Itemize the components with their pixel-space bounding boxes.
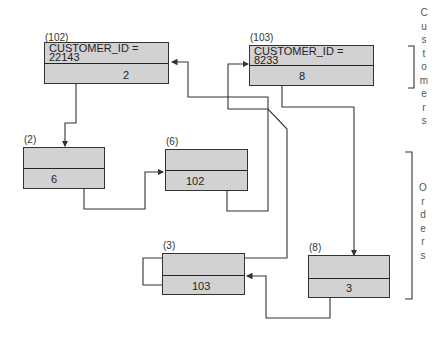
group-label-letter: m	[419, 74, 429, 88]
group-label-letter: e	[419, 87, 429, 101]
customers-group-label: Customers	[419, 6, 429, 128]
group-label-letter: t	[419, 47, 429, 61]
group-label-letter: r	[419, 101, 429, 115]
order-record-6: 102	[165, 149, 248, 191]
customer-key: CUSTOMER_ID = 22143	[49, 44, 138, 62]
record-address-2: (2)	[24, 134, 36, 145]
order-record-2: 6	[23, 147, 105, 189]
order-record-3: 103	[162, 253, 245, 295]
record-address-8: (8)	[309, 242, 321, 253]
group-label-letter: r	[418, 195, 428, 209]
group-label-letter: s	[419, 114, 429, 128]
group-label-letter: u	[419, 20, 429, 34]
pointer-value: 8	[299, 70, 305, 82]
orders-group-label: Orders	[418, 181, 428, 262]
customer-key: CUSTOMER_ID = 8233	[254, 47, 343, 65]
group-label-letter: s	[419, 33, 429, 47]
key-value: 22143	[49, 53, 138, 62]
record-address-6: (6)	[166, 136, 178, 147]
group-label-letter: o	[419, 60, 429, 74]
pointer-value: 6	[51, 173, 57, 185]
pointer-value: 102	[186, 175, 204, 187]
group-label-letter: C	[419, 6, 429, 20]
key-value: 8233	[254, 56, 343, 65]
order-record-8: 3	[308, 255, 390, 298]
pointer-value: 3	[346, 282, 352, 294]
group-label-letter: s	[418, 249, 428, 263]
record-address-103: (103)	[250, 32, 273, 43]
customer-record-22143: CUSTOMER_ID = 22143 2	[44, 42, 169, 84]
customer-record-8233: CUSTOMER_ID = 8233 8	[249, 45, 374, 86]
group-label-letter: d	[418, 208, 428, 222]
group-label-letter: O	[418, 181, 428, 195]
record-address-3: (3)	[163, 240, 175, 251]
group-label-letter: e	[418, 222, 428, 236]
pointer-value: 103	[192, 280, 210, 292]
pointer-value: 2	[123, 69, 129, 81]
group-label-letter: r	[418, 235, 428, 249]
